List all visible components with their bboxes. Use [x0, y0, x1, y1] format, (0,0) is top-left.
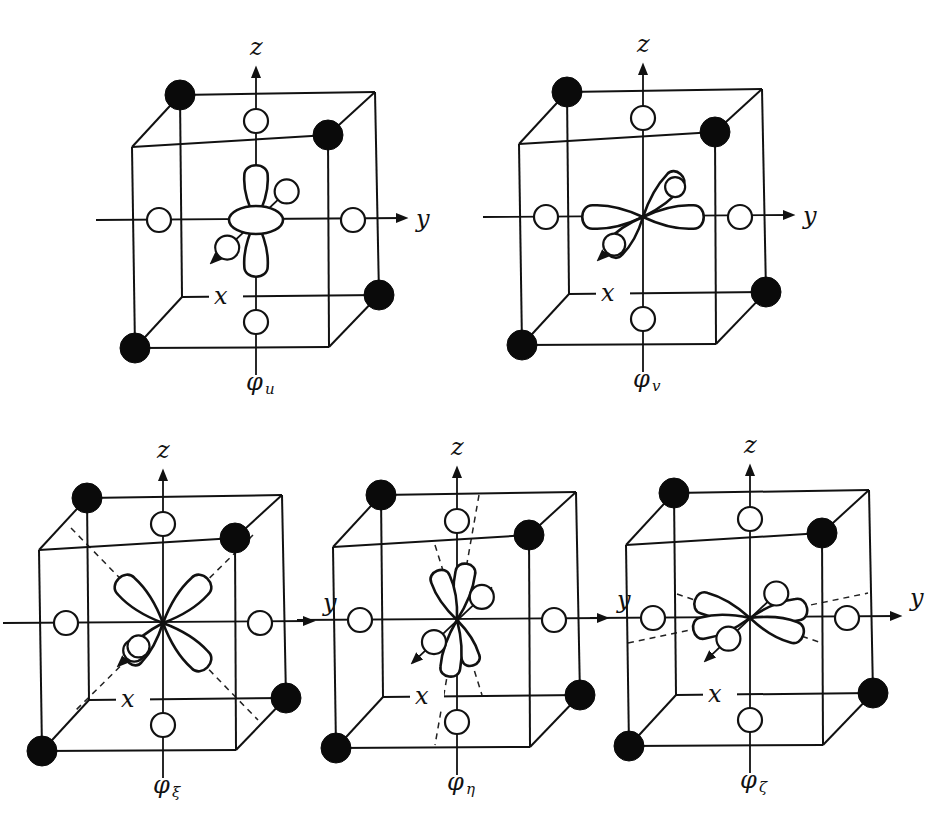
filled-atom-fbl [614, 731, 644, 761]
ligand-plus-z [631, 106, 655, 130]
orbital-panel-v: zyxφv [483, 30, 817, 395]
ligand-plus-y [542, 608, 566, 632]
filled-atom-ftr [807, 518, 837, 548]
ligand-minus-z [244, 310, 268, 334]
ligand-minus-z [631, 307, 655, 331]
x-axis-label: x [214, 282, 228, 310]
ligand-minus-y [348, 608, 372, 632]
y-axis-label: y [909, 584, 924, 612]
filled-atom-ftr [313, 120, 343, 150]
filled-atom-bbr [858, 678, 888, 708]
caption-subscript-xi: ξ [172, 783, 181, 801]
ligand-plus-y [835, 606, 859, 630]
caption-phi-xi: φ [153, 771, 170, 799]
caption-phi-eta: φ [447, 768, 464, 796]
x-axis-label: x [121, 685, 135, 713]
crystal-field-figure: zyxφuzyxφvzyxφξzyxφηzyxφζ [0, 0, 931, 822]
ligand-minus-y [54, 611, 78, 635]
caption-subscript-v: v [652, 377, 661, 395]
ligand-plus-z [738, 507, 762, 531]
orbital-panel-eta: zyxφη [297, 433, 631, 798]
x-axis-label: x [415, 682, 429, 710]
x-axis-label: x [708, 680, 722, 708]
ligand-minus-z [738, 708, 762, 732]
y-axis-label: y [802, 202, 817, 230]
ligand-plus-z [445, 509, 469, 533]
caption-phi-zeta: φ [740, 766, 757, 794]
filled-atom-fbl [507, 330, 537, 360]
filled-atom-btl [659, 478, 689, 508]
ligand-plus-z [151, 512, 175, 536]
caption-phi-v: φ [633, 365, 650, 393]
ligand-minus-z [151, 713, 175, 737]
caption-subscript-eta: η [466, 780, 475, 798]
y-axis-label: y [616, 586, 631, 614]
filled-atom-btl [72, 483, 102, 513]
filled-atom-ftr [220, 523, 250, 553]
ligand-plus-y [728, 205, 752, 229]
filled-atom-bbr [271, 683, 301, 713]
filled-atom-fbl [120, 333, 150, 363]
ligand-plus-y [248, 611, 272, 635]
z-axis-label: z [156, 436, 170, 464]
caption-subscript-u: u [265, 380, 275, 398]
filled-atom-btl [366, 480, 396, 510]
orbital-panel-zeta: zyxφζ [590, 431, 924, 796]
z-axis-label: z [450, 433, 464, 461]
z-axis-label: z [743, 431, 757, 459]
filled-atom-fbl [27, 736, 57, 766]
ligand-minus-y [641, 606, 665, 630]
orbital-dzx-lobes [422, 564, 494, 677]
x-axis-label: x [601, 279, 615, 307]
filled-atom-ftr [514, 520, 544, 550]
filled-atom-bbr [751, 277, 781, 307]
ligand-minus-z [445, 710, 469, 734]
z-axis-label: z [249, 33, 263, 61]
filled-atom-bbr [364, 280, 394, 310]
caption-subscript-zeta: ζ [759, 778, 768, 796]
orbital-panel-u: zyxφu [96, 33, 430, 398]
caption-phi-u: φ [246, 368, 263, 396]
ligand-minus-y [147, 208, 171, 232]
ligand-plus-z [244, 109, 268, 133]
orbital-dz2-lobes [215, 165, 298, 276]
filled-atom-btl [552, 77, 582, 107]
filled-atom-ftr [700, 117, 730, 147]
ligand-plus-y [341, 208, 365, 232]
orbital-panel-xi: zyxφξ [3, 436, 337, 801]
filled-atom-bbr [565, 680, 595, 710]
filled-atom-fbl [321, 733, 351, 763]
filled-atom-btl [165, 80, 195, 110]
y-axis-label: y [415, 205, 430, 233]
ligand-minus-y [534, 205, 558, 229]
z-axis-label: z [636, 30, 650, 58]
